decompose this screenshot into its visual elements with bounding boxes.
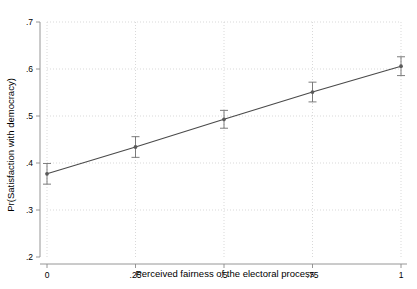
y-axis-title: Pr(Satisfaction with democracy) — [5, 78, 16, 212]
axes-group — [40, 22, 407, 264]
y-tick-label: .2 — [26, 252, 33, 262]
tick-marks-group — [36, 22, 401, 268]
y-tick-label: .5 — [26, 111, 33, 121]
data-point-marker — [134, 145, 138, 149]
tick-labels-group: .2.3.4.5.6.70.25.5.751 — [26, 17, 404, 280]
data-point-marker — [222, 117, 226, 121]
x-tick-label: 0 — [45, 270, 50, 280]
y-tick-label: .7 — [26, 17, 33, 27]
data-point-marker — [399, 64, 403, 68]
chart-figure: .2.3.4.5.6.70.25.5.751 Perceived fairnes… — [0, 0, 417, 289]
x-tick-label: 1 — [399, 270, 404, 280]
data-point-marker — [311, 90, 315, 94]
y-tick-label: .4 — [26, 158, 33, 168]
y-tick-label: .6 — [26, 64, 33, 74]
y-tick-label: .3 — [26, 205, 33, 215]
x-axis-title: Perceived fairness of the electoral proc… — [135, 268, 314, 279]
data-point-marker — [45, 172, 49, 176]
gridlines-group — [47, 22, 401, 257]
chart-canvas: .2.3.4.5.6.70.25.5.751 Perceived fairnes… — [0, 0, 417, 289]
